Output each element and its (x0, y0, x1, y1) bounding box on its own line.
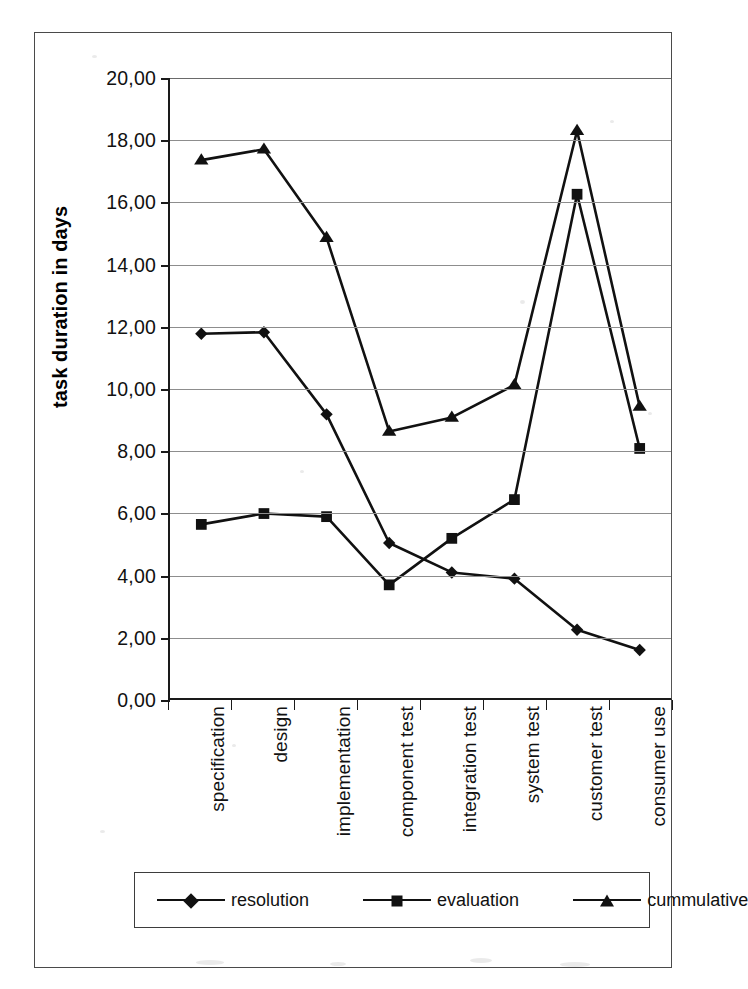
y-axis-tick (161, 78, 170, 80)
gridline (170, 513, 671, 514)
data-point-marker (257, 142, 271, 153)
legend-label: cummulative (647, 890, 748, 911)
y-axis-tick-label: 4,00 (117, 564, 156, 587)
legend-items: resolutionevaluationcummulative (135, 873, 649, 927)
legend: resolutionevaluationcummulative (134, 872, 650, 928)
y-axis-tick-label: 0,00 (117, 689, 156, 712)
y-axis-tick (161, 576, 170, 578)
legend-item[interactable]: cummulative (573, 890, 748, 911)
y-axis-tick (161, 140, 170, 142)
data-point-marker (195, 328, 207, 340)
gridline (170, 265, 671, 266)
x-axis-category-label: design (270, 706, 292, 763)
data-point-marker (383, 537, 395, 549)
y-axis-tick (161, 638, 170, 640)
gridline (170, 638, 671, 639)
legend-line-sample (573, 899, 641, 901)
x-axis-category-label: system test (522, 706, 544, 803)
legend-marker-triangle (600, 894, 614, 906)
y-axis-tick-label: 8,00 (117, 440, 156, 463)
y-axis-tick (161, 513, 170, 515)
x-axis-tick (672, 700, 673, 710)
series-line (201, 332, 639, 650)
y-axis-tick-label: 16,00 (106, 191, 156, 214)
data-point-marker (509, 494, 520, 505)
data-point-marker (384, 579, 395, 590)
legend-item[interactable]: resolution (157, 890, 309, 911)
scan-artifact (648, 412, 652, 415)
scan-artifact (92, 55, 97, 58)
gridline (170, 576, 671, 577)
x-axis-labels: specificationdesignimplementationcompone… (168, 706, 672, 856)
scan-artifact (300, 470, 304, 473)
x-axis-category-label: consumer use (648, 706, 670, 827)
y-axis-tick-label: 12,00 (106, 315, 156, 338)
plot-inner (170, 78, 671, 698)
gridline (170, 389, 671, 390)
data-point-marker (634, 644, 646, 656)
scan-artifact (610, 120, 614, 123)
y-axis-tick (161, 202, 170, 204)
gridline (170, 451, 671, 452)
data-point-marker (570, 124, 584, 135)
y-axis-tick-label: 10,00 (106, 378, 156, 401)
scan-artifact (330, 962, 346, 966)
data-point-marker (507, 378, 521, 389)
y-axis-tick (161, 451, 170, 453)
y-axis-tick (161, 327, 170, 329)
y-axis-tick-label: 6,00 (117, 502, 156, 525)
legend-marker-diamond (183, 893, 199, 909)
x-axis-category-label: customer test (585, 706, 607, 821)
y-axis-tick (161, 389, 170, 391)
series-resolution (195, 326, 646, 656)
series-line (201, 131, 639, 432)
y-axis-tick-label: 20,00 (106, 67, 156, 90)
legend-label: resolution (231, 890, 309, 911)
legend-line-sample (157, 899, 225, 901)
scan-artifact (520, 300, 525, 304)
y-axis-title: task duration in days (49, 206, 72, 408)
x-axis-category-label: integration test (459, 706, 481, 832)
scan-artifact (196, 960, 224, 965)
scan-artifact (232, 744, 236, 747)
y-axis-tick-label: 2,00 (117, 626, 156, 649)
data-point-marker (572, 189, 583, 200)
y-axis-tick-label: 18,00 (106, 129, 156, 152)
data-point-marker (446, 566, 458, 578)
legend-label: evaluation (437, 890, 519, 911)
data-point-marker (633, 400, 647, 411)
legend-line-sample (363, 899, 431, 901)
data-point-marker (634, 443, 645, 454)
data-point-marker (196, 519, 207, 530)
gridline (170, 327, 671, 328)
scan-artifact (470, 958, 492, 963)
scan-artifact (100, 830, 105, 833)
x-axis-category-label: implementation (333, 706, 355, 836)
scan-artifact (560, 962, 590, 967)
gridline (170, 78, 671, 79)
legend-item[interactable]: evaluation (363, 890, 519, 911)
x-axis-category-label: specification (207, 706, 229, 812)
plot-area (168, 78, 672, 700)
series-lines (170, 78, 671, 698)
y-axis-tick-label: 14,00 (106, 253, 156, 276)
x-axis-category-label: component test (396, 706, 418, 837)
gridline (170, 202, 671, 203)
y-axis-tick (161, 265, 170, 267)
y-axis-labels: task duration in days 0,002,004,006,008,… (54, 78, 156, 700)
gridline (170, 140, 671, 141)
legend-marker-square (392, 896, 403, 907)
data-point-marker (446, 533, 457, 544)
